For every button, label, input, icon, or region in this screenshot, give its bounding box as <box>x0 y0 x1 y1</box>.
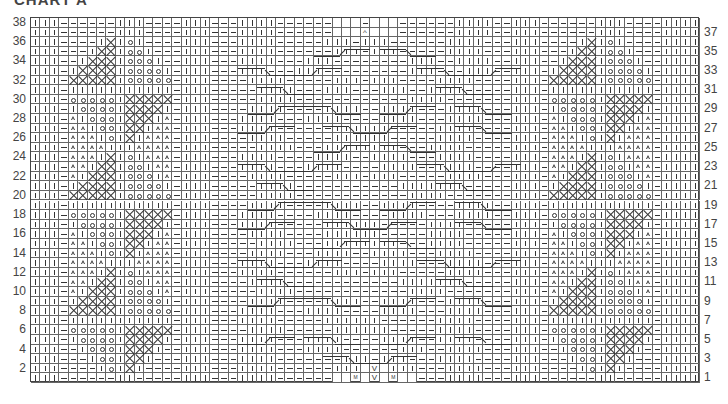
cable-cross-icon <box>269 337 295 338</box>
purl-icon <box>559 47 568 57</box>
chart-row-13 <box>31 258 698 268</box>
purl-icon <box>59 95 68 105</box>
triangle-icon <box>153 249 162 259</box>
knit-icon <box>521 364 530 374</box>
purl-icon <box>493 191 502 201</box>
cross-icon <box>97 277 106 287</box>
purl-icon <box>304 28 313 38</box>
knit-icon <box>182 162 191 172</box>
purl-icon <box>389 287 398 297</box>
purl-icon <box>59 133 68 143</box>
cross-icon <box>163 210 172 220</box>
knit-icon <box>116 162 125 172</box>
knit-icon <box>78 201 87 211</box>
purl-icon <box>540 335 549 345</box>
purl-icon <box>219 287 228 297</box>
knit-icon <box>681 114 690 124</box>
purl-icon <box>653 201 662 211</box>
knit-icon <box>417 95 426 105</box>
purl-icon <box>351 277 360 287</box>
knit-icon <box>530 277 539 287</box>
chart-row-26 <box>31 133 698 143</box>
bobble-icon <box>135 66 144 76</box>
knit-icon <box>304 345 313 355</box>
purl-icon <box>69 354 78 364</box>
knit-icon <box>88 277 97 287</box>
knit-icon <box>596 249 605 259</box>
knit-icon <box>116 114 125 124</box>
triangle-icon <box>153 143 162 153</box>
knit-icon <box>201 95 210 105</box>
knit-icon <box>267 95 276 105</box>
knit-icon <box>634 345 643 355</box>
knit-icon <box>521 354 530 364</box>
purl-icon <box>295 239 304 249</box>
knit-icon <box>606 28 615 38</box>
knit-icon <box>323 249 332 259</box>
purl-icon <box>219 85 228 95</box>
bobble-icon <box>153 66 162 76</box>
purl-icon <box>276 210 285 220</box>
purl-icon <box>229 325 238 335</box>
purl-icon <box>587 373 596 383</box>
cable-cross-icon <box>269 222 295 223</box>
bobble-icon <box>106 220 115 230</box>
cable-cross-icon <box>455 106 481 107</box>
bobble-icon <box>643 306 652 316</box>
knit-icon <box>267 18 276 28</box>
knit-icon <box>40 76 49 86</box>
knit-icon <box>455 47 464 57</box>
purl-icon <box>408 316 417 326</box>
purl-icon <box>408 85 417 95</box>
purl-icon <box>342 162 351 172</box>
bobble-icon <box>559 220 568 230</box>
purl-icon <box>219 191 228 201</box>
purl-icon <box>351 37 360 47</box>
cross-icon <box>587 66 596 76</box>
knit-icon <box>691 104 700 114</box>
purl-icon <box>653 277 662 287</box>
knit-icon <box>106 201 115 211</box>
knit-icon <box>31 220 40 230</box>
triangle-icon <box>634 133 643 143</box>
knit-icon <box>116 104 125 114</box>
purl-icon <box>229 210 238 220</box>
knit-icon <box>40 325 49 335</box>
triangle-icon <box>643 152 652 162</box>
knit-icon <box>191 18 200 28</box>
cable-cross-icon <box>380 114 406 115</box>
cross-icon <box>587 277 596 287</box>
purl-icon <box>295 268 304 278</box>
purl-icon <box>304 364 313 374</box>
knit-icon <box>530 229 539 239</box>
purl-icon <box>210 287 219 297</box>
bobble-icon <box>97 335 106 345</box>
triangle-icon <box>615 143 624 153</box>
purl-icon <box>295 316 304 326</box>
purl-icon <box>304 172 313 182</box>
chart-row-36 <box>31 37 698 47</box>
knit-icon <box>163 181 172 191</box>
cable-cross-icon <box>314 248 340 249</box>
knit-icon <box>662 239 671 249</box>
knit-icon <box>681 85 690 95</box>
knit-icon <box>50 152 59 162</box>
knit-icon <box>521 220 530 230</box>
purl-icon <box>549 56 558 66</box>
purl-icon <box>389 37 398 47</box>
chart-row-20 <box>31 191 698 201</box>
purl-icon <box>540 37 549 47</box>
knit-icon <box>351 76 360 86</box>
knit-icon <box>69 85 78 95</box>
cross-icon <box>587 37 596 47</box>
purl-icon <box>229 95 238 105</box>
knit-icon <box>191 104 200 114</box>
knit-icon <box>342 325 351 335</box>
knit-icon <box>512 133 521 143</box>
knit-icon <box>135 249 144 259</box>
knit-icon <box>276 133 285 143</box>
purl-icon <box>172 210 181 220</box>
knit-icon <box>596 306 605 316</box>
knit-icon <box>691 18 700 28</box>
knit-icon <box>201 37 210 47</box>
